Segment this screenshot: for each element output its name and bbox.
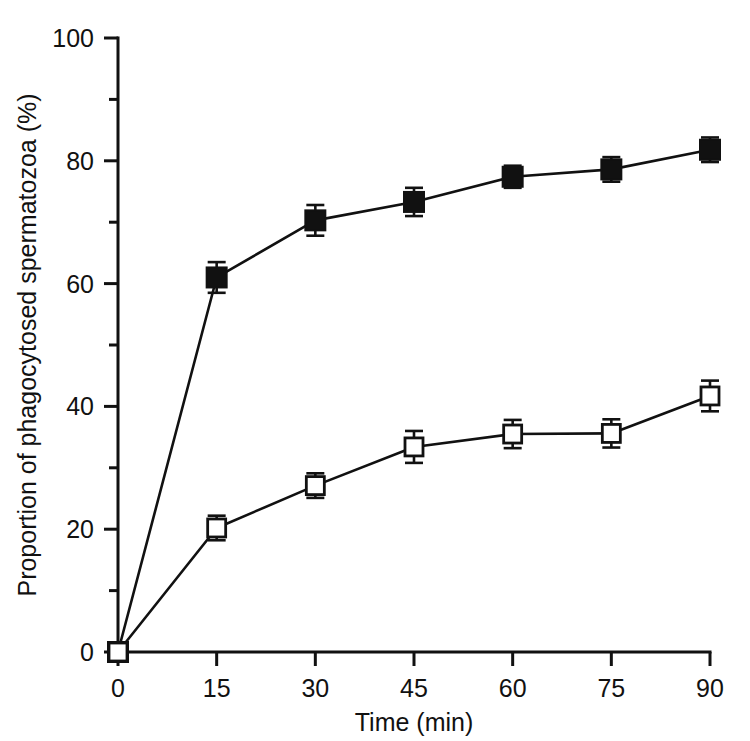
data-point-open-square — [306, 477, 324, 495]
y-axis-title: Proportion of phagocytosed spermatozoa (… — [13, 93, 41, 596]
data-point-filled-square — [207, 267, 227, 287]
data-point-open-square — [701, 387, 719, 405]
x-tick-label: 60 — [499, 674, 527, 702]
y-tick-label: 80 — [66, 147, 94, 175]
data-point-filled-square — [700, 140, 720, 160]
x-axis-tick-labels: 0153045607590 — [111, 674, 724, 702]
y-tick-label: 60 — [66, 270, 94, 298]
data-point-open-square — [405, 438, 423, 456]
x-tick-label: 75 — [597, 674, 625, 702]
data-point-filled-square — [305, 210, 325, 230]
x-tick-label: 45 — [400, 674, 428, 702]
series-line-filled-square-series — [118, 150, 710, 652]
y-tick-label: 20 — [66, 515, 94, 543]
data-point-open-square — [208, 519, 226, 537]
chart-figure: 020406080100 0153045607590 Time (min) Pr… — [0, 0, 750, 741]
line-chart: 020406080100 0153045607590 Time (min) Pr… — [0, 0, 750, 741]
y-axis-tick-labels: 020406080100 — [52, 24, 94, 666]
y-tick-label: 100 — [52, 24, 94, 52]
data-point-filled-square — [503, 167, 523, 187]
data-point-filled-square — [404, 192, 424, 212]
y-axis-ticks — [104, 38, 118, 652]
x-tick-label: 15 — [203, 674, 231, 702]
data-point-filled-square — [601, 159, 621, 179]
x-tick-label: 30 — [301, 674, 329, 702]
y-tick-label: 40 — [66, 392, 94, 420]
series-markers — [108, 140, 720, 662]
data-point-open-square — [109, 643, 127, 661]
x-axis-title: Time (min) — [355, 708, 474, 736]
x-tick-label: 90 — [696, 674, 724, 702]
data-point-open-square — [504, 425, 522, 443]
data-point-open-square — [602, 424, 620, 442]
axes — [118, 38, 710, 652]
series-lines — [118, 150, 710, 652]
x-axis-ticks — [118, 652, 710, 666]
series-error-bars — [208, 137, 719, 540]
y-tick-label: 0 — [80, 638, 94, 666]
x-tick-label: 0 — [111, 674, 125, 702]
